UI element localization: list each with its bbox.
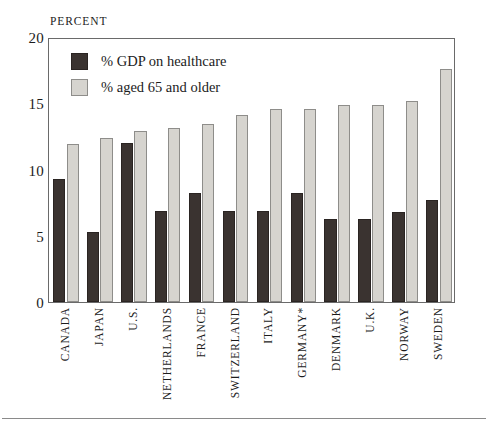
x-axis-labels: CANADAJAPANU.S.NETHERLANDSFRANCESWITZERL… bbox=[48, 303, 455, 413]
x-axis-label-slot: SWEDEN bbox=[421, 303, 455, 413]
x-axis-label-slot: SWITZERLAND bbox=[218, 303, 252, 413]
x-axis-label-slot: CANADA bbox=[48, 303, 82, 413]
bar-gdp-healthcare bbox=[155, 211, 167, 302]
x-axis-label-slot: ITALY bbox=[252, 303, 286, 413]
bar-aged-65-older bbox=[100, 138, 112, 302]
bar-aged-65-older bbox=[270, 109, 282, 302]
x-axis-tick-label: JAPAN bbox=[93, 307, 105, 346]
y-axis-tick-label: 20 bbox=[10, 31, 44, 46]
bar-gdp-healthcare bbox=[53, 179, 65, 302]
bar-gdp-healthcare bbox=[291, 193, 303, 302]
y-axis-tick-label: 10 bbox=[10, 164, 44, 179]
x-axis-label-slot: JAPAN bbox=[82, 303, 116, 413]
bar-group bbox=[354, 39, 388, 302]
x-axis-tick-label: NETHERLANDS bbox=[161, 307, 173, 400]
bar-aged-65-older bbox=[338, 105, 350, 302]
legend-item-label: % GDP on healthcare bbox=[101, 53, 227, 70]
bar-group bbox=[320, 39, 354, 302]
x-axis-label-slot: U.K. bbox=[353, 303, 387, 413]
x-axis-label-slot: NETHERLANDS bbox=[150, 303, 184, 413]
x-axis-label-slot: U.S. bbox=[116, 303, 150, 413]
x-axis-tick-label: U.S. bbox=[127, 307, 139, 331]
y-axis-tick-label: 5 bbox=[10, 230, 44, 245]
bar-aged-65-older bbox=[236, 115, 248, 302]
legend-item-label: % aged 65 and older bbox=[101, 79, 220, 96]
chart-legend: % GDP on healthcare% aged 65 and older bbox=[71, 48, 227, 100]
x-axis-label-slot: FRANCE bbox=[184, 303, 218, 413]
x-axis-tick-label: DENMARK bbox=[330, 307, 342, 371]
x-axis-label-slot: NORWAY bbox=[387, 303, 421, 413]
legend-item: % GDP on healthcare bbox=[71, 48, 227, 74]
x-axis-tick-label: FRANCE bbox=[195, 307, 207, 357]
chart-figure: PERCENT 20151050 % GDP on healthcare% ag… bbox=[0, 0, 488, 431]
bar-gdp-healthcare bbox=[358, 219, 370, 302]
bar-group bbox=[388, 39, 422, 302]
bar-aged-65-older bbox=[168, 128, 180, 302]
bar-aged-65-older bbox=[202, 124, 214, 302]
bar-gdp-healthcare bbox=[121, 143, 133, 302]
bar-aged-65-older bbox=[67, 144, 79, 302]
bar-group bbox=[253, 39, 287, 302]
bar-gdp-healthcare bbox=[257, 211, 269, 302]
y-axis-unit-caption: PERCENT bbox=[50, 15, 107, 27]
x-axis-tick-label: U.K. bbox=[364, 307, 376, 333]
bar-gdp-healthcare bbox=[87, 232, 99, 302]
x-axis-tick-label: NORWAY bbox=[398, 307, 410, 361]
bar-aged-65-older bbox=[406, 101, 418, 302]
y-axis-tick-label: 0 bbox=[10, 296, 44, 311]
y-axis: 20151050 bbox=[0, 0, 44, 431]
bottom-divider bbox=[2, 418, 486, 419]
x-axis-tick-label: GERMANY* bbox=[296, 307, 308, 378]
bar-gdp-healthcare bbox=[189, 193, 201, 302]
light-swatch-icon bbox=[71, 79, 88, 96]
bar-aged-65-older bbox=[304, 109, 316, 302]
x-axis-tick-label: ITALY bbox=[262, 307, 274, 344]
bar-aged-65-older bbox=[440, 69, 452, 302]
bar-gdp-healthcare bbox=[426, 200, 438, 302]
bar-gdp-healthcare bbox=[392, 212, 404, 302]
x-axis-label-slot: GERMANY* bbox=[285, 303, 319, 413]
bar-gdp-healthcare bbox=[324, 219, 336, 302]
bar-aged-65-older bbox=[372, 105, 384, 302]
legend-item: % aged 65 and older bbox=[71, 74, 227, 100]
bar-group bbox=[286, 39, 320, 302]
bar-group bbox=[422, 39, 456, 302]
x-axis-label-slot: DENMARK bbox=[319, 303, 353, 413]
bar-aged-65-older bbox=[134, 131, 146, 302]
bar-gdp-healthcare bbox=[223, 211, 235, 302]
plot-area: % GDP on healthcare% aged 65 and older bbox=[48, 38, 455, 303]
y-axis-tick-label: 15 bbox=[10, 97, 44, 112]
x-axis-tick-label: CANADA bbox=[59, 307, 71, 361]
x-axis-tick-label: SWITZERLAND bbox=[229, 307, 241, 398]
x-axis-tick-label: SWEDEN bbox=[432, 307, 444, 360]
dark-swatch-icon bbox=[71, 53, 88, 70]
